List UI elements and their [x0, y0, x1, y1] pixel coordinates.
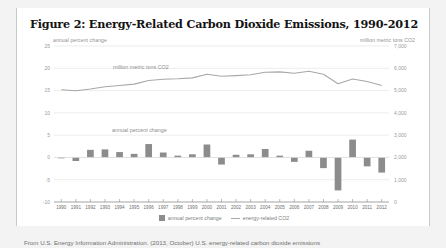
bar-2002 — [233, 155, 240, 158]
bar-2007 — [306, 151, 313, 158]
y-tick-right-5: 5,000 — [394, 87, 407, 93]
x-axis-labels: 1990199119921993199419951996199719981999… — [56, 205, 387, 210]
bar-1995 — [131, 154, 138, 158]
chart-plot-area: -10-50510152025 01,0002,0003,0004,0005,0… — [17, 8, 431, 226]
bar-series — [58, 140, 385, 191]
y-tick-left-3: 5 — [47, 132, 50, 138]
co2-line-path — [61, 71, 381, 91]
y-tick-right-4: 4,000 — [394, 110, 407, 116]
line-series — [61, 71, 381, 91]
legend-bar-swatch-icon — [159, 215, 165, 221]
y-tick-left-7: 25 — [44, 43, 50, 49]
bar-1999 — [189, 154, 196, 157]
x-tick-label-1994: 1994 — [114, 205, 125, 210]
y-tick-right-1: 1,000 — [394, 177, 407, 183]
y-tick-left-0: -10 — [43, 199, 50, 205]
bar-2006 — [291, 157, 298, 161]
y-tick-right-7: 7,000 — [394, 43, 407, 49]
bar-1996 — [145, 144, 152, 157]
bar-2010 — [349, 140, 356, 158]
x-tick-label-2003: 2003 — [246, 205, 257, 210]
bar-1997 — [160, 153, 167, 158]
y-tick-right-2: 2,000 — [394, 154, 407, 160]
x-tick-label-1996: 1996 — [144, 205, 155, 210]
screenshot-page: Figure 2: Energy-Related Carbon Dioxide … — [0, 0, 446, 248]
x-tick-label-2002: 2002 — [231, 205, 242, 210]
x-tick-label-1997: 1997 — [158, 205, 169, 210]
chart-legend: annual percent change energy-related CO2 — [17, 215, 431, 221]
x-tick-label-1993: 1993 — [100, 205, 111, 210]
bar-1993 — [102, 149, 109, 157]
bar-2009 — [335, 157, 342, 190]
x-tick-label-2000: 2000 — [202, 205, 213, 210]
x-tick-label-2004: 2004 — [260, 205, 271, 210]
source-note: From U.S. Energy Information Administrat… — [24, 238, 432, 247]
x-tick-label-1991: 1991 — [71, 205, 82, 210]
annotation-percent-bars: annual percent change — [112, 127, 167, 133]
y-tick-left-2: 0 — [47, 154, 50, 160]
bar-2011 — [364, 157, 371, 166]
x-tick-label-1995: 1995 — [129, 205, 140, 210]
y-tick-right-3: 3,000 — [394, 132, 407, 138]
x-tick-label-1990: 1990 — [56, 205, 67, 210]
bar-2008 — [320, 157, 327, 168]
y-tick-left-6: 20 — [44, 65, 50, 71]
legend-item-annual-percent-change: annual percent change — [159, 215, 222, 221]
x-tick-label-1992: 1992 — [85, 205, 96, 210]
y-tick-left-1: -5 — [46, 177, 51, 183]
x-tick-label-2007: 2007 — [304, 205, 315, 210]
x-tick-label-2009: 2009 — [333, 205, 344, 210]
x-tick-label-2012: 2012 — [377, 205, 388, 210]
legend-item-energy-related-co2: energy-related CO2 — [231, 215, 290, 221]
bar-1994 — [116, 152, 123, 157]
x-tick-label-2010: 2010 — [347, 205, 358, 210]
chart-svg: -10-50510152025 01,0002,0003,0004,0005,0… — [17, 8, 431, 226]
y-tick-left-4: 10 — [44, 110, 50, 116]
bar-1991 — [72, 157, 79, 161]
bar-2001 — [218, 157, 225, 164]
x-tick-label-2011: 2011 — [362, 205, 372, 210]
y-tick-left-5: 15 — [44, 87, 50, 93]
bar-2000 — [204, 145, 211, 158]
y-tick-right-6: 6,000 — [394, 65, 407, 71]
x-tick-label-1999: 1999 — [187, 205, 198, 210]
x-tick-label-2005: 2005 — [275, 205, 286, 210]
legend-label-energy-related-co2: energy-related CO2 — [243, 215, 290, 221]
y-axis-right-labels: 01,0002,0003,0004,0005,0006,0007,000 — [394, 43, 407, 205]
bar-1992 — [87, 150, 94, 158]
x-tick-label-2006: 2006 — [289, 205, 300, 210]
x-tick-label-2008: 2008 — [318, 205, 329, 210]
legend-line-swatch-icon — [231, 218, 240, 219]
annotation-co2-line: million metric tons CO2 — [113, 64, 169, 70]
x-axis — [54, 199, 389, 202]
x-tick-label-1998: 1998 — [173, 205, 184, 210]
bar-2003 — [247, 154, 254, 157]
bar-2004 — [262, 149, 269, 157]
x-tick-label-2001: 2001 — [216, 205, 227, 210]
y-axis-left-labels: -10-50510152025 — [43, 43, 50, 205]
legend-label-annual-percent-change: annual percent change — [168, 215, 222, 221]
figure-card: Figure 2: Energy-Related Carbon Dioxide … — [16, 8, 430, 226]
bar-2012 — [378, 157, 385, 172]
y-tick-right-0: 0 — [394, 199, 397, 205]
